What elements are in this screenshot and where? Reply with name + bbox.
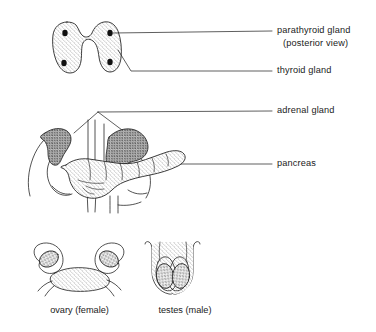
ovary-illustration (34, 243, 124, 296)
label-pancreas: pancreas (277, 158, 316, 170)
leader-line-parathyroid (113, 31, 272, 33)
ovary-right (97, 248, 122, 271)
testes-illustration (145, 242, 200, 295)
caption-ovary-female: ovary (female) (22, 305, 137, 315)
adrenal-pancreas-illustration (28, 111, 272, 213)
label-adrenal-gland: adrenal gland (277, 105, 335, 117)
caption-testes-male: testes (male) (130, 305, 240, 315)
adrenal-gland-left (41, 129, 71, 166)
ovary-left (37, 248, 62, 271)
label-parathyroid-gland: parathyroid gland (277, 25, 351, 37)
label-thyroid-gland: thyroid gland (277, 65, 332, 77)
parathyroid-gland-dot (107, 59, 112, 65)
leader-line-adrenal (98, 111, 272, 112)
parathyroid-gland-dot (62, 30, 67, 36)
endocrine-diagram (0, 0, 376, 332)
leader-branch-adrenal-left (74, 112, 98, 133)
label-parathyroid-posterior-view: (posterior view) (283, 38, 348, 50)
leader-line-thyroid (118, 50, 272, 71)
thyroid-gland-illustration (53, 22, 122, 73)
parathyroid-gland-dot (61, 60, 66, 66)
parathyroid-gland-dot (107, 30, 112, 36)
